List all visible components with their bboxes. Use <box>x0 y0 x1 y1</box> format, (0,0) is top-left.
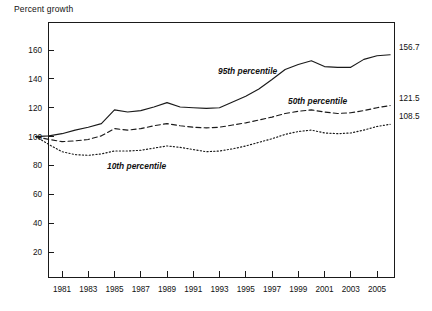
x-axis-tick-label: 2003 <box>342 285 361 294</box>
y-axis-tick-label: 140 <box>28 75 42 84</box>
x-axis-tick-label: 1993 <box>210 285 229 294</box>
y-axis-tick-label: 120 <box>28 104 42 113</box>
plot-frame <box>48 22 394 277</box>
y-axis-tick-label: 80 <box>33 161 43 170</box>
series-annotation-50th-percentile: 50th percentile <box>288 96 347 106</box>
y-axis-tick-label: 40 <box>33 219 43 228</box>
series-end-value-10th-percentile: 108.5 <box>399 112 420 121</box>
x-axis-tick-label: 1991 <box>184 285 203 294</box>
x-axis-tick-label: 2001 <box>315 285 334 294</box>
x-axis-tick-label: 1983 <box>79 285 98 294</box>
x-axis-tick-label: 1999 <box>289 285 308 294</box>
x-axis-tick-label: 1987 <box>132 285 151 294</box>
x-axis-tick-label: 1995 <box>237 285 256 294</box>
chart-container: Percent growth 2040608010012014016019811… <box>0 0 432 311</box>
y-axis-tick-label: 60 <box>33 190 43 199</box>
series-end-value-95th-percentile: 156.7 <box>399 43 420 52</box>
series-line-50th-percentile <box>36 106 390 142</box>
series-annotation-10th-percentile: 10th percentile <box>107 161 166 171</box>
series-end-value-50th-percentile: 121.5 <box>399 94 420 103</box>
x-axis-tick-label: 1989 <box>158 285 177 294</box>
x-axis-tick-label: 1981 <box>53 285 72 294</box>
line-chart-svg: 2040608010012014016019811983198519871989… <box>0 0 432 311</box>
x-axis-tick-label: 1985 <box>105 285 124 294</box>
x-axis-tick-label: 1997 <box>263 285 282 294</box>
y-axis-tick-label: 20 <box>33 248 43 257</box>
y-axis-tick-label: 160 <box>28 46 42 55</box>
x-axis-tick-label: 2005 <box>368 285 387 294</box>
series-annotation-95th-percentile: 95th percentile <box>218 66 277 76</box>
